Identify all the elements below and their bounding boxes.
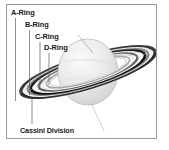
label-cassini-division: Cassini Division bbox=[20, 127, 74, 134]
saturn-ring-diagram: A-Ring B-Ring C-Ring D-Ring Cassini Divi… bbox=[0, 0, 169, 150]
leader-line-ring-plane-lower bbox=[92, 105, 104, 131]
label-b-ring: B-Ring bbox=[25, 21, 49, 28]
label-d-ring: D-Ring bbox=[44, 44, 68, 51]
label-a-ring: A-Ring bbox=[11, 9, 35, 16]
label-c-ring: C-Ring bbox=[35, 33, 59, 40]
